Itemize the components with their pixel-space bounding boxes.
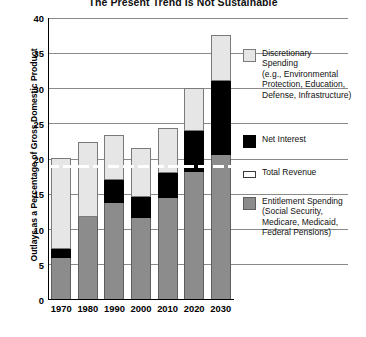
y-tick-label-15: 15 — [20, 189, 44, 200]
legend-swatch-net-interest — [243, 135, 256, 148]
plot-area — [48, 18, 234, 300]
legend-item-net-interest: Net Interest — [243, 134, 306, 148]
y-tick-label-35: 35 — [20, 48, 44, 59]
y-tick-label-0: 0 — [20, 295, 44, 306]
chart-title: The Present Trend Is Not Sustainable — [0, 0, 366, 8]
plot-frame — [48, 18, 234, 300]
legend-swatch-discretionary — [243, 49, 256, 62]
chart-container: The Present Trend Is Not Sustainable Out… — [0, 0, 366, 337]
y-tick-label-5: 5 — [20, 259, 44, 270]
y-tick-label-40: 40 — [20, 13, 44, 24]
legend-label-discretionary: Discretionary Spending (e.g., Environmen… — [262, 48, 351, 100]
legend-swatch-entitlement — [243, 197, 256, 210]
legend-item-entitlement: Entitlement Spending (Social Security, M… — [243, 196, 343, 238]
y-tick-label-30: 30 — [20, 83, 44, 94]
legend-item-total-revenue: Total Revenue — [243, 167, 316, 178]
legend-swatch-total-revenue — [243, 171, 256, 178]
y-tick-label-10: 10 — [20, 224, 44, 235]
x-tick-label-2030: 2030 — [204, 303, 238, 314]
legend-label-total-revenue: Total Revenue — [262, 167, 316, 177]
legend-label-net-interest: Net Interest — [262, 134, 306, 144]
legend-label-entitlement: Entitlement Spending (Social Security, M… — [262, 196, 343, 238]
y-axis-ticks: 0510152025303540 — [16, 18, 44, 300]
legend-item-discretionary: Discretionary Spending (e.g., Environmen… — [243, 48, 351, 100]
y-tick-label-20: 20 — [20, 154, 44, 165]
y-tick-label-25: 25 — [20, 118, 44, 129]
x-axis-ticks: 1970198019902000201020202030 — [48, 303, 234, 319]
